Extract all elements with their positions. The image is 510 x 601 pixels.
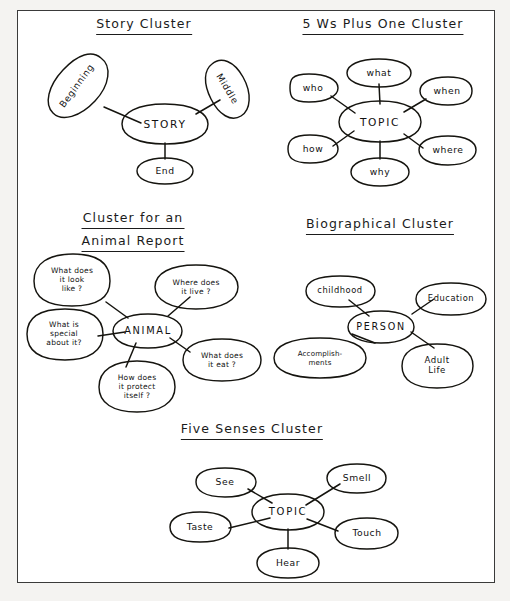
node-hear[interactable]: Hear bbox=[276, 558, 300, 569]
heading-line: Biographical Cluster bbox=[306, 214, 454, 235]
node-why[interactable]: why bbox=[370, 167, 390, 178]
heading-biographical-cluster: Biographical Cluster bbox=[306, 214, 454, 237]
heading-five-senses-cluster: Five Senses Cluster bbox=[181, 419, 323, 442]
worksheet-sheet-border bbox=[17, 10, 495, 583]
node-education[interactable]: Education bbox=[428, 294, 474, 304]
node-animal-center[interactable]: ANIMAL bbox=[124, 325, 172, 336]
node-touch[interactable]: Touch bbox=[352, 528, 381, 539]
node-end[interactable]: End bbox=[155, 166, 174, 177]
node-smell[interactable]: Smell bbox=[343, 473, 371, 484]
node-childhood[interactable]: childhood bbox=[317, 286, 362, 296]
node-what-special[interactable]: What is special about it? bbox=[46, 320, 81, 347]
node-story-center[interactable]: STORY bbox=[143, 118, 186, 130]
heading-line: Cluster for an bbox=[82, 208, 185, 229]
heading-line: Story Cluster bbox=[96, 14, 192, 35]
node-where-live[interactable]: Where does it live ? bbox=[172, 278, 219, 296]
node-how-protect[interactable]: How does it protect itself ? bbox=[118, 373, 157, 400]
node-what-look-like[interactable]: What does it look like ? bbox=[51, 266, 93, 293]
heading-animal-report-cluster: Cluster for an Animal Report bbox=[82, 208, 185, 254]
node-taste[interactable]: Taste bbox=[187, 522, 214, 533]
node-topic-center-5ws[interactable]: TOPIC bbox=[360, 116, 400, 128]
node-see[interactable]: See bbox=[216, 477, 235, 488]
heading-story-cluster: Story Cluster bbox=[96, 14, 192, 37]
heading-five-ws-cluster: 5 Ws Plus One Cluster bbox=[302, 14, 463, 37]
node-accomplishments[interactable]: Accomplish- ments bbox=[298, 350, 343, 367]
worksheet-page: Story Cluster 5 Ws Plus One Cluster Clus… bbox=[0, 0, 510, 601]
node-who[interactable]: who bbox=[303, 83, 324, 94]
heading-line: Five Senses Cluster bbox=[181, 419, 323, 440]
node-adult-life[interactable]: Adult Life bbox=[424, 356, 449, 376]
node-how[interactable]: how bbox=[303, 144, 324, 155]
heading-line: 5 Ws Plus One Cluster bbox=[302, 14, 463, 35]
node-where[interactable]: where bbox=[433, 145, 464, 156]
node-topic-center-senses[interactable]: TOPIC bbox=[269, 506, 307, 518]
node-what[interactable]: what bbox=[367, 68, 392, 79]
node-what-eat[interactable]: What does it eat ? bbox=[201, 351, 243, 369]
node-person-center[interactable]: PERSON bbox=[356, 321, 406, 332]
node-when[interactable]: when bbox=[433, 86, 460, 97]
heading-line: Animal Report bbox=[82, 231, 185, 252]
